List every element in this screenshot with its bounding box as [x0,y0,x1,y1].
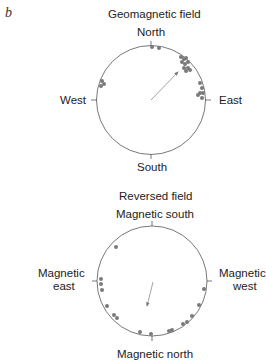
top-data-points [99,45,205,100]
top-mean-direction-arrow [151,72,178,100]
bottom-compass-circle [92,221,212,341]
bottom-data-points [99,245,206,336]
diagram-canvas [0,0,266,364]
bottom-mean-direction-arrow [147,282,153,306]
